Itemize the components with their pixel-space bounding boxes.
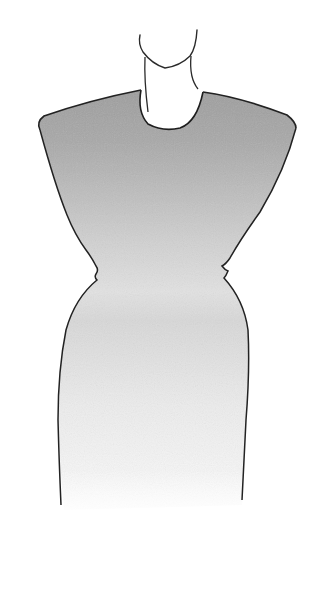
dress-sketch-illustration [0,0,322,597]
dress-body [39,90,296,510]
hem-fade [50,470,260,520]
chin-line [139,30,197,68]
dress-sketch-canvas: fashion sketch of a sleeveless shift dre… [0,0,322,597]
neck-right-line [191,56,198,89]
neck-left-line [145,57,148,112]
